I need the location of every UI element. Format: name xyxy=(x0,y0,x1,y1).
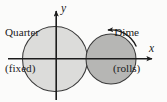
x-axis-label: x xyxy=(149,42,154,54)
quarter-label-line2: (fixed) xyxy=(5,62,39,74)
dime-label-line2: (rolls) xyxy=(113,62,140,74)
quarter-label: Quarter (fixed) xyxy=(5,2,39,99)
quarter-label-line1: Quarter xyxy=(5,26,39,38)
dime-label-line1: Dime xyxy=(113,26,140,38)
dime-label: Dime (rolls) xyxy=(113,2,140,99)
y-axis-label: y xyxy=(61,2,66,14)
figure-container: Quarter (fixed) Dime (rolls) y x xyxy=(0,0,167,102)
